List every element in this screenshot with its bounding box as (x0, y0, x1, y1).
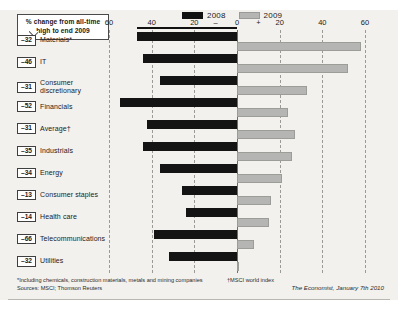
publication-credit: The Economist, January 7th 2010 (291, 284, 384, 291)
category-label: Telecommunications (40, 235, 102, 243)
category-change-value: –32 (17, 35, 36, 46)
x-tick-pos40: 40 (318, 18, 326, 27)
bar-row (109, 140, 389, 162)
bar-row (109, 30, 389, 52)
bar-row (109, 52, 389, 74)
bar-row (109, 251, 389, 273)
bar-2009 (237, 218, 269, 227)
category-row: –13Consumer staples (17, 190, 102, 201)
chart-container: 2008 2009 % change from all-time high to… (0, 0, 398, 309)
bar-2008 (169, 252, 237, 261)
category-label: Utilities (40, 257, 102, 265)
category-row: –14Health care (17, 212, 102, 223)
category-row: –32Utilities (17, 256, 102, 267)
bar-2009 (237, 130, 295, 139)
x-tick-pos20: 20 (275, 18, 283, 27)
bar-2009 (237, 152, 292, 161)
category-change-value: –52 (17, 101, 36, 112)
bar-2009 (237, 86, 307, 95)
category-row: –31Consumer discretionary (17, 79, 102, 95)
bar-2008 (143, 142, 237, 151)
bar-row (109, 96, 389, 118)
category-label: Health care (40, 213, 102, 221)
bar-row (109, 163, 389, 185)
category-row: –32Materials* (17, 35, 102, 46)
bar-2009 (237, 108, 288, 117)
negative-sign-marker: – (214, 18, 218, 27)
category-row: –66Telecommunications (17, 234, 102, 245)
bar-2008 (186, 208, 237, 217)
x-tick-neg20: 20 (190, 18, 198, 27)
category-label: Financials (40, 103, 102, 111)
bar-2009 (237, 174, 282, 183)
bar-2009 (237, 240, 254, 249)
category-label: Consumer staples (40, 191, 102, 199)
bar-2008 (147, 120, 237, 129)
callout-line-1: % change from all-time (21, 18, 105, 27)
bar-2009 (237, 262, 239, 271)
top-margin (0, 0, 398, 10)
category-change-value: –14 (17, 212, 36, 223)
category-label: Materials* (40, 36, 102, 44)
positive-sign-marker: + (256, 18, 260, 27)
bar-2009 (237, 64, 348, 73)
bar-2008 (182, 186, 237, 195)
category-row: –35Industrials (17, 146, 102, 157)
bar-row (109, 185, 389, 207)
category-label: Consumer discretionary (40, 79, 102, 95)
plot-area: 6040200204060–+ (109, 30, 389, 273)
category-change-value: –66 (17, 234, 36, 245)
bar-2008 (137, 32, 237, 41)
x-tick-zero0: 0 (235, 18, 239, 27)
category-change-value: –32 (17, 256, 36, 267)
category-change-value: –34 (17, 168, 36, 179)
bar-2009 (237, 196, 271, 205)
footnotes: *Including chemicals, construction mater… (17, 276, 337, 292)
category-change-value: –13 (17, 190, 36, 201)
category-change-value: –35 (17, 146, 36, 157)
bar-row (109, 229, 389, 251)
bar-2008 (143, 54, 237, 63)
footnote-star: *Including chemicals, construction mater… (17, 276, 227, 284)
category-change-value: –46 (17, 57, 36, 68)
x-axis-rule (137, 27, 237, 29)
bar-2008 (160, 76, 237, 85)
x-tick-neg60: 60 (105, 18, 113, 27)
category-row: –34Energy (17, 168, 102, 179)
bar-row (109, 74, 389, 96)
bar-row (109, 207, 389, 229)
footnote-dagger: †MSCI world index (227, 276, 274, 284)
category-label-column: –32Materials*–46IT–31Consumer discretion… (0, 30, 109, 273)
bar-row (109, 118, 389, 140)
category-label: Average† (40, 125, 102, 133)
category-change-value: –31 (17, 82, 36, 93)
bar-rows (109, 30, 389, 273)
category-label: Industrials (40, 147, 102, 155)
bar-2008 (154, 230, 237, 239)
category-row: –46IT (17, 57, 102, 68)
x-tick-pos60: 60 (361, 18, 369, 27)
bar-2008 (160, 164, 237, 173)
category-label: IT (40, 58, 102, 66)
category-label: Energy (40, 169, 102, 177)
bar-2009 (237, 42, 361, 51)
x-tick-neg40: 40 (147, 18, 155, 27)
category-row: –31Average† (17, 123, 102, 134)
bottom-margin (0, 300, 398, 309)
category-row: –52Financials (17, 101, 102, 112)
category-change-value: –31 (17, 123, 36, 134)
bar-2008 (120, 98, 237, 107)
footnote-sources: Sources: MSCI; Thomson Reuters (17, 284, 337, 292)
